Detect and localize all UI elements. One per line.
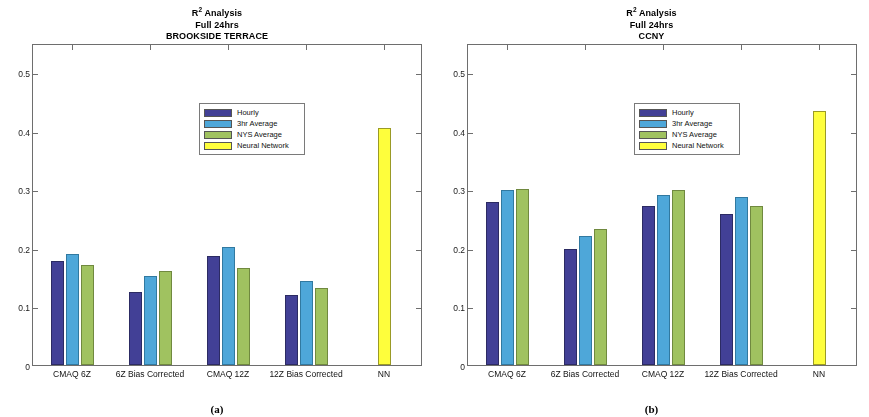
- legend-swatch-icon: [639, 120, 667, 128]
- panel-b-ytick-label: 0: [441, 362, 465, 372]
- legend-label: Hourly: [672, 108, 694, 117]
- bar-nys: [159, 271, 172, 365]
- panel-a-xtick-mark: [384, 45, 385, 50]
- panel-b-ytick-mark: [851, 191, 856, 192]
- panel-a-ytick-mark: [33, 308, 38, 309]
- panel-b-xtick-label: CMAQ 6Z: [488, 369, 526, 379]
- panel-a-ytick-mark: [33, 74, 38, 75]
- panel-a-ytick-label: 0: [6, 362, 30, 372]
- bar-avg3: [222, 247, 235, 365]
- panel-b-ytick-label: 0.1: [441, 303, 465, 313]
- panel-b-ytick-label: 0.2: [441, 245, 465, 255]
- panel-b-xtick-label: NN: [813, 369, 825, 379]
- legend-label: NYS Average: [672, 130, 717, 139]
- panel-a-plot-area: 00.10.20.30.40.5 Hourly3hr AverageNYS Av…: [32, 44, 422, 366]
- legend-item: Neural Network: [204, 140, 299, 151]
- bar-avg3: [144, 276, 157, 365]
- panel-a-ytick-mark: [416, 308, 421, 309]
- panel-b-xtick-mark: [585, 45, 586, 50]
- bar-nys: [750, 206, 763, 365]
- panel-a-ytick-label: 0.5: [6, 69, 30, 79]
- panel-b-ytick-label: 0.3: [441, 186, 465, 196]
- bar-avg3: [657, 195, 670, 365]
- bar-hourly: [207, 256, 220, 365]
- panel-a-xtick-label: CMAQ 12Z: [207, 369, 250, 379]
- bar-hourly: [51, 261, 64, 365]
- panel-a-ytick-label: 0.2: [6, 245, 30, 255]
- legend-label: NYS Average: [237, 130, 282, 139]
- panel-b-xtick-mark: [507, 45, 508, 50]
- legend-item: NYS Average: [204, 129, 299, 140]
- bar-avg3: [735, 197, 748, 365]
- legend-swatch-icon: [204, 131, 232, 139]
- bar-nn: [813, 111, 826, 365]
- figure-two-panel-bar-charts: R2 Analysis Full 24hrs BROOKSIDE TERRACE…: [0, 0, 869, 417]
- panel-a-title-analysis: Analysis: [202, 8, 242, 18]
- bar-hourly: [642, 206, 655, 365]
- panel-a-ytick-label: 0.1: [6, 303, 30, 313]
- panel-b-xtick-label: 12Z Bias Corrected: [704, 369, 777, 379]
- bar-nys: [594, 229, 607, 365]
- panel-b-title-line2: Full 24hrs: [434, 20, 869, 32]
- bar-hourly: [285, 295, 298, 365]
- legend-item: 3hr Average: [204, 118, 299, 129]
- bar-nys: [81, 265, 94, 365]
- legend-item: NYS Average: [639, 129, 734, 140]
- panel-b-xtick-label: CMAQ 12Z: [642, 369, 685, 379]
- bar-nys: [315, 288, 328, 365]
- panel-a-ytick-mark: [416, 250, 421, 251]
- panel-b-ytick-mark: [468, 308, 473, 309]
- panel-a-xtick-mark: [306, 45, 307, 50]
- panel-a: R2 Analysis Full 24hrs BROOKSIDE TERRACE…: [0, 0, 434, 417]
- legend-item: Hourly: [204, 107, 299, 118]
- legend-label: 3hr Average: [237, 119, 277, 128]
- legend-swatch-icon: [204, 142, 232, 150]
- legend-swatch-icon: [204, 120, 232, 128]
- bar-nys: [237, 268, 250, 365]
- panel-a-title-line3: BROOKSIDE TERRACE: [0, 31, 434, 43]
- bar-avg3: [579, 236, 592, 365]
- panel-a-ytick-label: 0.4: [6, 128, 30, 138]
- bar-hourly: [720, 214, 733, 365]
- panel-b-ytick-mark: [851, 133, 856, 134]
- panel-a-ytick-mark: [416, 74, 421, 75]
- panel-a-title: R2 Analysis Full 24hrs BROOKSIDE TERRACE: [0, 4, 434, 43]
- panel-a-xtick-mark: [150, 45, 151, 50]
- panel-a-xtick-label: 6Z Bias Corrected: [116, 369, 185, 379]
- panel-b-ytick-mark: [851, 308, 856, 309]
- panel-b-title-line3: CCNY: [434, 31, 869, 43]
- bar-hourly: [564, 249, 577, 366]
- panel-b-xtick-mark: [741, 45, 742, 50]
- panel-b-caption: (b): [434, 403, 869, 415]
- legend-label: 3hr Average: [672, 119, 712, 128]
- panel-a-axes: 00.10.20.30.40.5: [33, 45, 421, 365]
- panel-a-xtick-label: CMAQ 6Z: [53, 369, 91, 379]
- panel-b-ytick-mark: [468, 191, 473, 192]
- panel-b: R2 Analysis Full 24hrs CCNY 00.10.20.30.…: [434, 0, 869, 417]
- panel-a-ytick-mark: [416, 191, 421, 192]
- legend-label: Neural Network: [237, 141, 289, 150]
- bar-avg3: [300, 281, 313, 365]
- panel-b-axes: 00.10.20.30.40.5: [468, 45, 856, 365]
- panel-a-title-line2: Full 24hrs: [0, 20, 434, 32]
- panel-a-xtick-label: 12Z Bias Corrected: [269, 369, 342, 379]
- bar-hourly: [129, 292, 142, 365]
- panel-a-xtick-mark: [228, 45, 229, 50]
- panel-a-xtick-label: NN: [378, 369, 390, 379]
- panel-b-ytick-mark: [468, 74, 473, 75]
- bar-nys: [672, 190, 685, 365]
- panel-b-title-r: R: [626, 8, 633, 18]
- legend-swatch-icon: [639, 142, 667, 150]
- panel-b-plot-area: 00.10.20.30.40.5 Hourly3hr AverageNYS Av…: [467, 44, 857, 366]
- bar-hourly: [486, 202, 499, 365]
- panel-a-legend: Hourly3hr AverageNYS AverageNeural Netwo…: [199, 103, 305, 155]
- panel-b-title: R2 Analysis Full 24hrs CCNY: [434, 4, 869, 43]
- panel-a-ytick-mark: [33, 250, 38, 251]
- bar-avg3: [501, 190, 514, 365]
- legend-item: Neural Network: [639, 140, 734, 151]
- panel-b-ytick-mark: [468, 250, 473, 251]
- panel-b-xtick-mark: [663, 45, 664, 50]
- bar-avg3: [66, 254, 79, 365]
- panel-b-ytick-label: 0.4: [441, 128, 465, 138]
- legend-swatch-icon: [639, 131, 667, 139]
